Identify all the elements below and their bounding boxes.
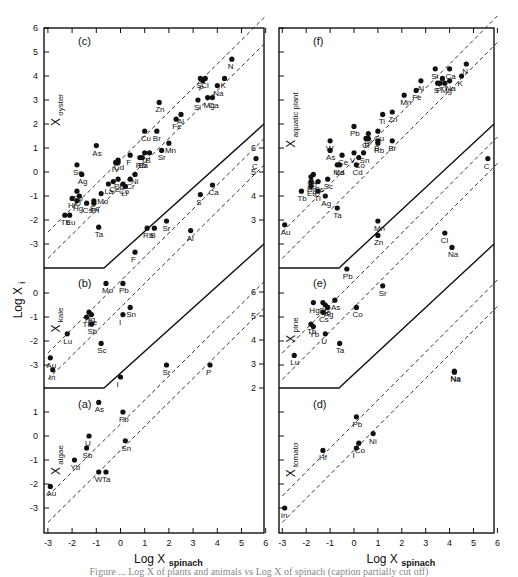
x-tick-label: 1 [375,538,380,548]
data-point [356,155,361,160]
point-label: As [92,149,101,158]
data-point [464,61,469,66]
point-label: I [117,380,119,389]
x-tick-label: -3 [278,538,286,548]
data-point [137,155,142,160]
x-tick-label: 2 [166,538,171,548]
x-tick-label: 0 [118,538,123,548]
data-point [195,97,200,102]
point-label: Ta [102,475,111,484]
x-tick-label: 3 [191,538,196,548]
point-label: P [206,368,211,377]
point-label: Co [352,310,363,319]
y-tick-label: 0 [33,288,38,298]
point-label: Pb [119,415,129,424]
panel-title: X oyster [49,94,65,126]
data-point [198,192,203,197]
data-point [74,162,79,167]
data-point [354,414,359,419]
right-column-axes: -3-2-10123456Log X spinach [278,28,500,568]
panel-title: X pine [284,317,300,343]
data-point [74,198,79,203]
point-label: Zn [374,238,383,247]
point-label: Ta [95,230,104,239]
y-tick-label: 1 [33,143,38,153]
data-point [320,310,325,315]
data-point [128,153,133,158]
data-point [164,218,169,223]
point-label: Hf [319,453,328,462]
point-label: I [352,451,354,460]
y-tick-label: -1 [30,191,38,201]
data-point [174,117,179,122]
point-label: Al [187,234,194,243]
y-tick-label: -3 [30,503,38,513]
data-point [311,300,316,305]
y-tick-label: 4 [33,71,38,81]
data-point [316,179,321,184]
panel-letter: (e) [313,277,326,289]
y-tick-label: -1 [30,455,38,465]
y-tick-label: 5 [251,311,256,321]
data-point [366,131,371,136]
data-point [380,112,385,117]
point-label: F [364,141,369,150]
point-label: Hg [309,306,319,315]
data-point [459,73,464,78]
data-point [67,213,72,218]
data-point [449,245,454,250]
data-point [222,76,227,81]
data-point [84,201,89,206]
data-point [328,148,333,153]
panel-letter: (d) [313,398,326,410]
point-label: Ca [208,101,219,110]
data-point [328,138,333,143]
point-label: Ca [208,188,219,197]
data-point [89,312,94,317]
data-point [115,160,120,165]
data-point [72,457,77,462]
data-point [96,469,101,474]
point-label: K [458,79,464,88]
point-label: Sc [97,346,106,355]
data-point [210,95,215,100]
point-label: Sr [162,224,170,233]
data-point [308,184,313,189]
point-label: Rb [143,231,154,240]
y-tick-label: 2 [251,383,256,393]
scatter-figure: -3-2-10123456Log X spinach-3-2-10123456L… [0,0,518,577]
y-tick-label: -1 [30,312,38,322]
data-point [200,78,205,83]
data-point [128,177,133,182]
data-point [74,189,79,194]
point-label: F [126,158,131,167]
point-label: Ag [321,199,331,208]
y-tick-label: 3 [33,95,38,105]
data-point [452,369,457,374]
panel-title: X aquatic plant [284,91,300,147]
data-point [79,172,84,177]
y-tick-label: -2 [30,336,38,346]
y-tick-label: 3 [251,215,256,225]
x-tick-label: -1 [92,538,100,548]
data-point [188,228,193,233]
y-tick-label: -3 [30,360,38,370]
data-point [164,362,169,367]
data-point [437,81,442,86]
y-tick-label: -2 [30,215,38,225]
data-point [62,213,67,218]
data-point [311,324,316,329]
point-label: C [252,162,258,171]
point-label: In [49,373,56,382]
point-label: Mg [441,86,452,95]
point-label: P [199,84,204,93]
data-point [442,230,447,235]
point-label: Mo [102,286,114,295]
data-point [371,431,376,436]
data-point [94,143,99,148]
point-label: Eu [66,218,76,227]
point-label: Sc [324,182,333,191]
point-label: La [336,168,345,177]
point-label: La [104,187,113,196]
data-point [123,184,128,189]
